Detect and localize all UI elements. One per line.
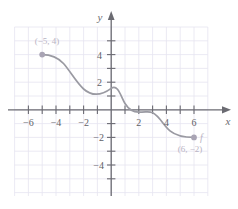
x-axis-label: x xyxy=(225,115,231,127)
x-tick-label-neg4: −4 xyxy=(51,117,62,128)
x-tick-label-6: 6 xyxy=(192,117,197,128)
x-tick-label-2: 2 xyxy=(136,117,141,128)
y-tick-label-4: 4 xyxy=(97,50,102,61)
x-tick-label-4: 4 xyxy=(164,117,169,128)
x-axis xyxy=(8,106,231,113)
x-tick-label-neg2: −2 xyxy=(78,117,89,128)
left-endpoint-marker xyxy=(39,52,45,58)
graph-figure: y x −6 −4 −2 2 4 6 4 2 −2 −4 (−5, 4) (6,… xyxy=(0,0,238,209)
right-endpoint-label: (6, −2) xyxy=(178,144,203,154)
left-endpoint-label: (−5, 4) xyxy=(35,36,60,46)
y-tick-label-neg2: −2 xyxy=(93,132,104,143)
y-axis-label: y xyxy=(97,11,103,23)
y-tick-label-2: 2 xyxy=(97,77,102,88)
y-tick-label-neg4: −4 xyxy=(93,160,104,171)
coordinate-plane: y x −6 −4 −2 2 4 6 4 2 −2 −4 (−5, 4) (6,… xyxy=(0,0,238,209)
right-endpoint-marker xyxy=(191,135,197,141)
y-axis xyxy=(108,11,115,196)
x-tick-label-neg6: −6 xyxy=(23,117,34,128)
